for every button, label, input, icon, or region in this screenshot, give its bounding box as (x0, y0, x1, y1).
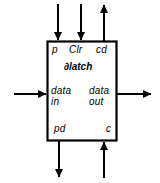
port-label-data-in-line1: data (51, 85, 71, 96)
port-label-clr: Clr (69, 44, 82, 55)
port-label-p: p (52, 44, 58, 55)
port-label-data-out-line1: data (89, 85, 109, 96)
latch-block-diagram: p Clr cd ∂latch data in data out pd c (0, 0, 160, 183)
port-label-data-in-line2: in (51, 96, 59, 107)
port-label-cd: cd (96, 44, 107, 55)
port-label-c: c (106, 123, 111, 134)
diagram-canvas (0, 0, 160, 183)
port-label-data-out-line2: out (89, 96, 104, 107)
block-name-label: ∂latch (64, 61, 92, 72)
port-label-pd: pd (54, 123, 66, 134)
